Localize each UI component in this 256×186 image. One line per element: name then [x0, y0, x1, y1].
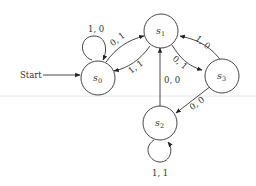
transition-label: 0, 1: [171, 53, 190, 71]
transition-s3-s1: 1, 0: [180, 33, 222, 62]
state-diagram: Start 1, 0 0, 1 1, 1 0, 1 1, 0 0, 0 0, 0…: [0, 0, 256, 186]
transition-label: 0, 0: [187, 94, 206, 112]
transition-s1-s0: 1, 1: [114, 46, 150, 76]
state-s2: s2: [143, 106, 177, 140]
transition-label: 0, 0: [164, 75, 180, 85]
state-s0: s0: [81, 61, 115, 95]
transition-s3-s2: 0, 0: [176, 86, 211, 113]
state-s1: s1: [144, 14, 178, 48]
start-arrow: Start: [20, 70, 80, 80]
state-s3: s3: [205, 59, 239, 93]
start-label: Start: [20, 70, 42, 80]
transition-s0-s0: 1, 0: [82, 24, 105, 60]
transition-label: 1, 1: [126, 58, 145, 76]
transition-label: 0, 1: [108, 30, 127, 48]
transition-s2-s2: 1, 1: [148, 140, 171, 178]
transition-label: 1, 1: [152, 168, 168, 178]
transition-s1-s3: 0, 1: [171, 45, 202, 71]
transition-label: 1, 0: [88, 24, 104, 34]
